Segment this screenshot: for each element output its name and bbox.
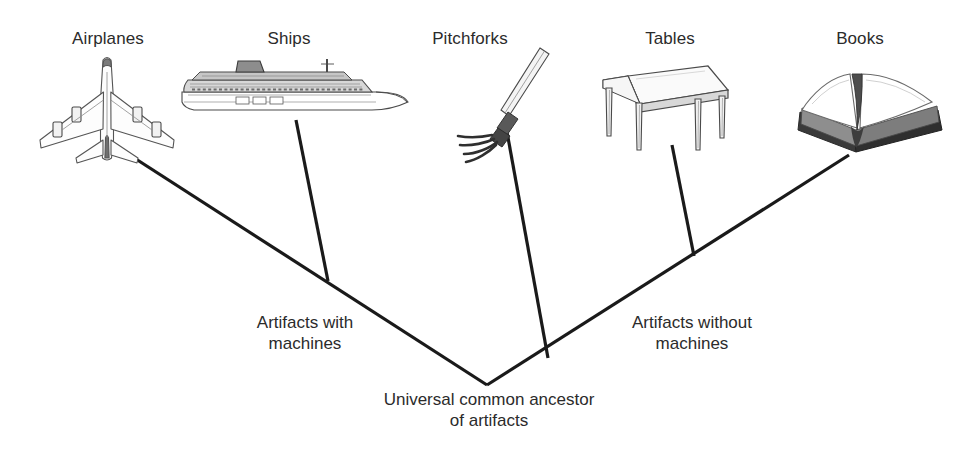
taxon-label-airplanes: Airplanes — [72, 29, 144, 49]
root-label-line2: of artifacts — [384, 410, 595, 431]
clade-without-machines-line1: Artifacts without — [632, 312, 752, 333]
clade-with-machines-line1: Artifacts with — [257, 312, 353, 333]
root-label-universal-common-ancestor: Universal common ancestor of artifacts — [384, 389, 595, 431]
clade-label-without-machines: Artifacts without machines — [632, 312, 752, 354]
root-label-line1: Universal common ancestor — [384, 389, 595, 410]
pitchfork-icon — [452, 46, 562, 164]
clade-with-machines-line2: machines — [257, 333, 353, 354]
table-icon — [592, 58, 732, 163]
clade-without-machines-line2: machines — [632, 333, 752, 354]
airplane-top-view-icon — [32, 52, 182, 167]
cruise-ship-icon — [176, 58, 411, 118]
open-book-icon — [792, 60, 947, 170]
clade-label-with-machines: Artifacts with machines — [257, 312, 353, 354]
taxon-label-ships: Ships — [267, 29, 310, 49]
taxon-label-books: Books — [836, 29, 884, 49]
phylogeny-diagram: Airplanes Ships Pitchforks Tables Books — [0, 0, 969, 452]
branch-ships — [296, 120, 328, 281]
taxon-label-tables: Tables — [645, 29, 695, 49]
